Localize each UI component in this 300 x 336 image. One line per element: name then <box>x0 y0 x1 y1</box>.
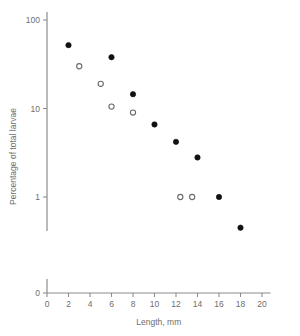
chart-canvas: 100101002468101214161820Length, mmPercen… <box>0 0 300 336</box>
x-tick-label: 12 <box>171 299 181 309</box>
x-tick-label: 14 <box>193 299 203 309</box>
data-point-filled <box>195 155 200 160</box>
y-tick-label: 0 <box>35 288 40 298</box>
data-point-filled <box>152 122 157 127</box>
data-point-open <box>130 110 135 115</box>
data-point-filled <box>173 139 178 144</box>
data-point-filled <box>109 54 114 59</box>
y-tick-label: 1 <box>35 192 40 202</box>
data-point-filled <box>238 225 243 230</box>
x-tick-label: 2 <box>66 299 71 309</box>
x-tick-label: 20 <box>257 299 267 309</box>
x-tick-label: 0 <box>45 299 50 309</box>
data-point-open <box>190 194 195 199</box>
x-tick-label: 10 <box>150 299 160 309</box>
x-tick-label: 6 <box>109 299 114 309</box>
x-tick-label: 8 <box>131 299 136 309</box>
y-tick-label: 10 <box>31 104 41 114</box>
data-point-open <box>178 194 183 199</box>
x-tick-label: 4 <box>88 299 93 309</box>
data-point-open <box>98 81 103 86</box>
scatter-chart: 100101002468101214161820Length, mmPercen… <box>0 0 300 336</box>
y-axis-title: Percentage of total larvae <box>8 108 18 205</box>
x-axis-title: Length, mm <box>136 317 181 327</box>
data-point-filled <box>66 42 71 47</box>
data-point-filled <box>130 92 135 97</box>
x-tick-label: 18 <box>236 299 246 309</box>
x-tick-label: 16 <box>214 299 224 309</box>
data-point-filled <box>216 194 221 199</box>
data-point-open <box>109 104 114 109</box>
data-point-open <box>77 64 82 69</box>
y-tick-label: 100 <box>26 15 40 25</box>
